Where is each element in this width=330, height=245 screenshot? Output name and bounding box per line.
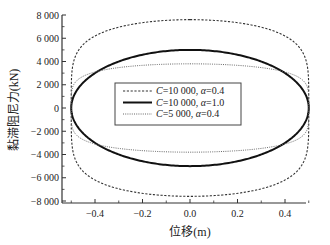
legend-label: C=5 000, α=0.4 [156,108,219,119]
y-tick-label: 8 000 [37,10,60,21]
y-tick-label: −8 000 [31,196,59,207]
legend: C=10 000, α=0.4C=10 000, α=1.0C=5 000, α… [115,83,241,125]
y-axis-label: 黏滞阻尼力(kN) [7,69,21,152]
x-axis-label: 位移(m) [169,224,210,239]
y-tick-label: −2 000 [31,126,59,137]
y-tick-label: 2 000 [37,79,60,90]
x-tick-label: −0.2 [133,208,151,219]
y-tick-label: 6 000 [37,33,60,44]
y-tick-label: 0 [54,103,59,114]
legend-label: C=10 000, α=0.4 [156,85,224,96]
x-tick-label: 0.4 [279,208,292,219]
y-tick-label: −4 000 [31,149,59,160]
hysteresis-chart: −8 000−6 000−4 000−2 00002 0004 0006 000… [0,0,330,245]
chart-canvas: −8 000−6 000−4 000−2 00002 0004 0006 000… [0,0,330,245]
x-tick-label: 0.2 [231,208,244,219]
x-tick-label: 0.0 [184,208,197,219]
x-tick-label: −0.4 [86,208,104,219]
y-tick-label: −6 000 [31,172,59,183]
y-tick-label: 4 000 [37,56,60,67]
legend-label: C=10 000, α=1.0 [156,97,224,108]
